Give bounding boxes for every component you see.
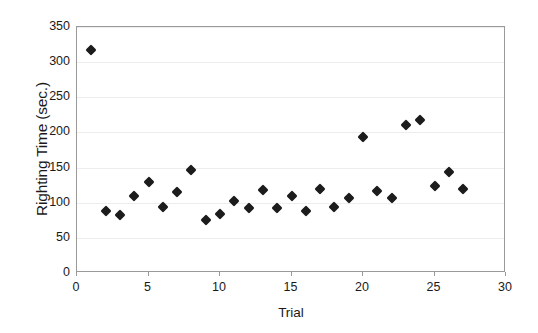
data-point [214, 208, 225, 219]
y-tick-label-100: 100 [36, 196, 70, 209]
data-point [286, 190, 297, 201]
data-point [314, 184, 325, 195]
x-tick-mark-5 [148, 272, 149, 276]
data-point [229, 196, 240, 207]
data-point [143, 176, 154, 187]
x-tick-mark-20 [362, 272, 363, 276]
plot-area [76, 26, 505, 272]
data-point [400, 119, 411, 130]
y-tick-label-150: 150 [36, 161, 70, 174]
data-point [100, 205, 111, 216]
x-tick-mark-0 [76, 272, 77, 276]
data-point [272, 203, 283, 214]
x-tick-label-30: 30 [485, 281, 525, 294]
x-tick-label-15: 15 [271, 281, 311, 294]
data-point [415, 114, 426, 125]
x-tick-mark-15 [291, 272, 292, 276]
data-point [200, 215, 211, 226]
y-tick-label-200: 200 [36, 125, 70, 138]
scatter-chart: Righting Time (sec.) 0501001502002503003… [0, 0, 538, 333]
y-tick-label-250: 250 [36, 90, 70, 103]
x-axis-tick-labels: 051015202530 [0, 279, 538, 297]
y-tick-label-350: 350 [36, 20, 70, 33]
x-tick-mark-25 [434, 272, 435, 276]
data-point [429, 180, 440, 191]
data-point [129, 191, 140, 202]
gridline-y-150 [77, 168, 504, 169]
x-tick-label-20: 20 [342, 281, 382, 294]
data-point [86, 45, 97, 56]
data-point [257, 184, 268, 195]
gridline-y-200 [77, 132, 504, 133]
data-point [114, 210, 125, 221]
x-axis-title: Trial [76, 305, 506, 320]
gridline-y-250 [77, 97, 504, 98]
y-tick-label-50: 50 [36, 231, 70, 244]
data-point [171, 186, 182, 197]
gridline-y-100 [77, 203, 504, 204]
data-point [372, 185, 383, 196]
x-tick-label-25: 25 [414, 281, 454, 294]
data-point [186, 164, 197, 175]
data-point [457, 184, 468, 195]
x-tick-label-5: 5 [128, 281, 168, 294]
y-tick-label-0: 0 [36, 266, 70, 279]
data-point [300, 205, 311, 216]
x-tick-mark-10 [219, 272, 220, 276]
gridline-y-300 [77, 62, 504, 63]
y-tick-label-300: 300 [36, 55, 70, 68]
gridline-y-350 [77, 27, 504, 28]
gridline-y-50 [77, 238, 504, 239]
x-tick-mark-30 [505, 272, 506, 276]
x-tick-label-10: 10 [199, 281, 239, 294]
x-tick-label-0: 0 [56, 281, 96, 294]
